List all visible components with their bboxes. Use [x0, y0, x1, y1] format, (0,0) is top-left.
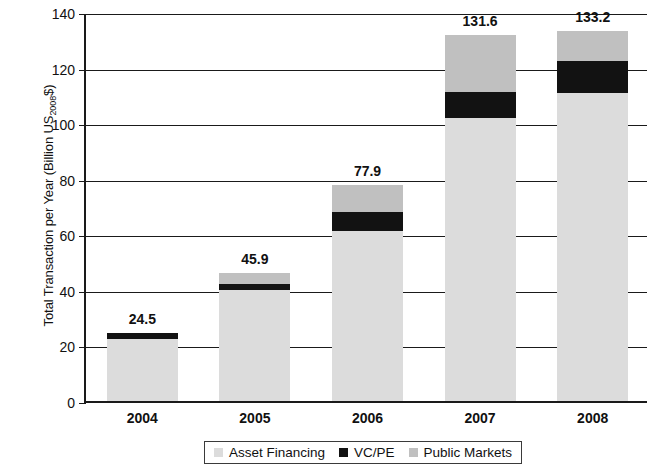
legend-swatch-asset: [214, 448, 223, 457]
bar-stack: [332, 185, 403, 401]
y-axis-tick-label: 20: [59, 339, 75, 355]
y-axis-tick-label: 120: [52, 62, 75, 78]
y-axis-tick-label: 60: [59, 228, 75, 244]
x-axis-tick-label: 2008: [577, 410, 608, 426]
bar-total-label: 77.9: [354, 163, 381, 179]
y-axis-title-text: Total Transaction per Year (Billion US: [41, 116, 56, 327]
y-axis-tick-mark: [79, 125, 86, 126]
x-axis-tick-label: 2007: [465, 410, 496, 426]
legend-item[interactable]: Asset Financing: [214, 445, 325, 460]
bar-total-label: 24.5: [129, 311, 156, 327]
bar-segment-vc-pe: [445, 92, 516, 118]
y-axis-title-tail: $): [41, 85, 56, 96]
legend-item[interactable]: Public Markets: [409, 445, 513, 460]
y-axis-tick-label: 140: [52, 6, 75, 22]
bar-group[interactable]: 77.92006: [332, 12, 403, 401]
bar-total-label: 131.6: [463, 13, 498, 29]
y-axis-tick-label: 0: [67, 395, 75, 411]
bar-stack: [219, 273, 290, 401]
legend-label: Asset Financing: [229, 445, 325, 460]
y-axis-tick-mark: [79, 403, 86, 404]
y-axis-tick-mark: [79, 181, 86, 182]
bar-total-label: 133.2: [575, 9, 610, 25]
chart-legend: Asset FinancingVC/PEPublic Markets: [204, 441, 522, 464]
bar-segment-asset-financing: [445, 118, 516, 401]
legend-swatch-vcpe: [339, 448, 348, 457]
bar-segment-vc-pe: [332, 212, 403, 231]
bar-segment-asset-financing: [219, 290, 290, 401]
bar-group[interactable]: 131.62007: [445, 12, 516, 401]
y-axis-tick-mark: [79, 14, 86, 15]
y-axis-tick-mark: [79, 70, 86, 71]
y-axis-tick-label: 100: [52, 117, 75, 133]
bar-stack: [107, 333, 178, 401]
legend-item[interactable]: VC/PE: [339, 445, 395, 460]
y-axis-tick-mark: [79, 236, 86, 237]
bar-group[interactable]: 133.22008: [557, 12, 628, 401]
bar-group[interactable]: 24.52004: [107, 12, 178, 401]
y-axis-tick-mark: [79, 347, 86, 348]
bar-total-label: 45.9: [241, 251, 268, 267]
bar-segment-public-markets: [219, 273, 290, 284]
bar-segment-public-markets: [557, 31, 628, 62]
bar-segment-vc-pe: [219, 284, 290, 290]
bar-segment-vc-pe: [557, 61, 628, 92]
legend-label: Public Markets: [424, 445, 513, 460]
bar-stack: [557, 31, 628, 401]
y-axis-tick-label: 80: [59, 173, 75, 189]
bar-segment-asset-financing: [332, 231, 403, 401]
bar-segment-asset-financing: [107, 339, 178, 401]
x-axis-tick-label: 2004: [127, 410, 158, 426]
bar-segment-vc-pe: [107, 333, 178, 339]
bar-stack: [445, 35, 516, 401]
x-axis-tick-label: 2006: [352, 410, 383, 426]
plot-area: 020406080100120140 24.5200445.9200577.92…: [84, 14, 647, 403]
bar-segment-public-markets: [332, 185, 403, 212]
bar-segment-public-markets: [445, 35, 516, 91]
y-axis-tick-label: 40: [59, 284, 75, 300]
legend-label: VC/PE: [354, 445, 395, 460]
legend-swatch-public: [409, 448, 418, 457]
stacked-bar-chart: Total Transaction per Year (Billion US20…: [0, 0, 662, 466]
bar-segment-asset-financing: [557, 93, 628, 401]
y-axis-title-subscript: 2008: [48, 96, 58, 116]
x-axis-tick-label: 2005: [239, 410, 270, 426]
y-axis-tick-mark: [79, 292, 86, 293]
bar-group[interactable]: 45.92005: [219, 12, 290, 401]
